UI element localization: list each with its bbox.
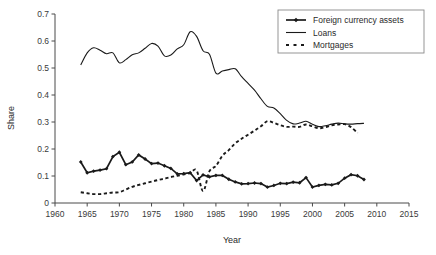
y-tick-label: 0.7 [37,9,49,19]
data-point-marker [240,182,244,186]
y-tick-label: 0.1 [37,171,49,181]
x-tick-label: 1970 [110,209,129,219]
y-tick-label: 0.2 [37,144,49,154]
x-axis-title: Year [223,235,241,245]
data-point-marker [285,182,289,186]
x-tick-label: 2010 [367,209,386,219]
legend-label: Mortgages [313,40,353,50]
x-tick-label: 1995 [271,209,290,219]
x-tick-label: 1990 [239,209,258,219]
series-foreign-currency-assets [79,150,366,189]
data-point-marker [253,181,257,185]
y-tick-label: 0 [44,198,49,208]
y-tick-label: 0.4 [37,90,49,100]
y-tick-label: 0.6 [37,36,49,46]
line-chart: 00.10.20.30.40.50.60.7 19601965197019751… [0,0,436,255]
x-tick-label: 2015 [400,209,419,219]
x-tick-label: 2000 [303,209,322,219]
data-point-marker [330,183,334,187]
chart-container: 00.10.20.30.40.50.60.7 19601965197019751… [0,0,436,255]
y-tick-label: 0.3 [37,117,49,127]
y-axis-title: Share [6,106,16,130]
y-axis: 00.10.20.30.40.50.60.7 [37,9,55,208]
series-layer [79,31,366,194]
data-point-marker [214,174,218,178]
x-tick-label: 1975 [142,209,161,219]
chart-legend: Foreign currency assetsLoansMortgages [278,10,424,53]
x-tick-label: 1965 [78,209,97,219]
series-foreign-currency-assets-path [81,152,364,187]
data-point-marker [323,182,327,186]
x-tick-label: 1960 [46,209,65,219]
data-point-marker [291,180,295,184]
x-tick-label: 2005 [335,209,354,219]
data-point-marker [98,168,102,172]
data-point-marker [317,184,321,188]
y-tick-label: 0.5 [37,63,49,73]
x-axis: 1960196519701975198019851990199520002005… [46,203,419,219]
x-tick-label: 1985 [206,209,225,219]
data-point-marker [92,169,96,173]
data-point-marker [246,182,250,186]
legend-label: Foreign currency assets [313,15,404,25]
legend-label: Loans [313,28,336,38]
x-tick-label: 1980 [174,209,193,219]
